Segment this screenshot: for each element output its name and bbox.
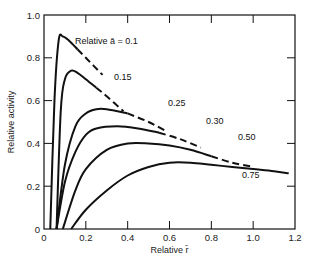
curve-4 xyxy=(63,143,212,229)
x-tick-label: 1.2 xyxy=(288,232,301,243)
x-axis-label: Relative r̄ xyxy=(150,245,188,255)
y-axis-label: Relative activity xyxy=(6,90,16,153)
y-tick-label: 0.2 xyxy=(27,181,40,192)
curve-label: 0.75 xyxy=(242,170,260,180)
curve-label: Relative ā = 0.1 xyxy=(75,36,138,46)
curve-label: 0.50 xyxy=(238,132,256,142)
curve-dashed-0 xyxy=(77,49,102,75)
chart: 00.20.40.60.81.01.200.20.40.60.81.0Relat… xyxy=(0,0,313,265)
y-tick-label: 0.4 xyxy=(27,138,40,149)
x-tick-label: 0.4 xyxy=(121,232,134,243)
x-tick-label: 0 xyxy=(41,232,46,243)
x-tick-label: 0.2 xyxy=(79,232,92,243)
curve-label: 0.25 xyxy=(168,98,186,108)
x-tick-label: 0.8 xyxy=(205,232,218,243)
y-tick-label: 0 xyxy=(35,224,40,235)
x-tick-label: 1.0 xyxy=(247,232,260,243)
y-tick-label: 1.0 xyxy=(27,10,40,21)
y-tick-label: 0.6 xyxy=(27,95,40,106)
plot-frame xyxy=(44,15,295,229)
curve-label: 0.30 xyxy=(206,116,224,126)
y-tick-label: 0.8 xyxy=(27,52,40,63)
x-tick-label: 0.6 xyxy=(163,232,176,243)
curve-3 xyxy=(57,126,159,229)
curve-label: 0.15 xyxy=(114,72,132,82)
